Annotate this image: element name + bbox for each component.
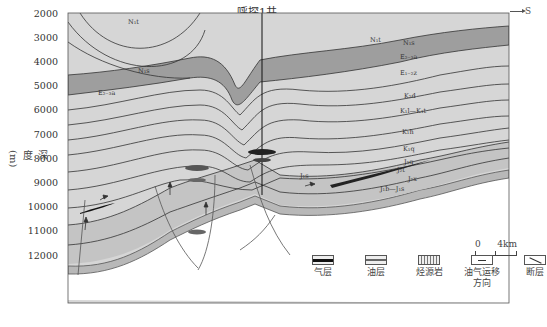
formation-label: K₁l—K₁t (400, 107, 427, 115)
scale-end: 4km (497, 239, 517, 249)
formation-label: J₃q (403, 158, 413, 166)
formation-label: K₂d (404, 92, 416, 100)
formation-label: N₁t (128, 18, 139, 26)
legend-oil: 油层 (358, 255, 394, 289)
gas-layer-swatch (312, 255, 334, 265)
formation-label: N₁t (370, 36, 381, 44)
formation-label: N₁s (138, 67, 150, 75)
formation-label: J₁b—J₁s (379, 185, 404, 193)
source-rock-swatch (418, 255, 440, 265)
formation-label: E₂₋₃a (400, 53, 417, 61)
fault-swatch (524, 255, 546, 265)
legend: 气层 油层 烃源岩 油气运移方向 断层 (305, 255, 547, 289)
formation-label: J₂t (396, 166, 405, 174)
formation-label: E₂₋₃a (98, 89, 115, 97)
scale-start: 0 (475, 239, 481, 249)
migration-arrow-swatch (471, 255, 493, 265)
legend-fault: 断层 (517, 255, 547, 289)
formation-label: K₁h (402, 128, 414, 136)
formation-label: N₁s (403, 39, 415, 47)
oil-layer-swatch (365, 255, 387, 265)
legend-gas: 气层 (305, 255, 341, 289)
formation-label: K₁q (403, 145, 415, 153)
formation-label: J₁s (299, 172, 309, 180)
formation-label: E₁₋₂z (400, 69, 417, 77)
legend-source-rock: 烃源岩 (411, 255, 447, 289)
scale-bar: 0 4km (475, 239, 517, 256)
legend-migration: 油气运移方向 (464, 255, 500, 289)
formation-label: J₂x (407, 175, 417, 183)
